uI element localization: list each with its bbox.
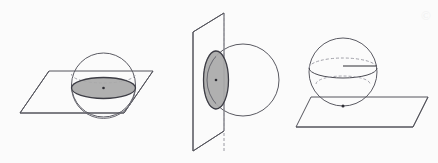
center-dot	[215, 79, 218, 82]
plane-left-edge	[20, 71, 49, 113]
lower-latitude-dashed-arc	[316, 76, 370, 84]
figure-2-sphere-cut-by-vertical-plane	[193, 13, 279, 151]
plane-parallelogram	[296, 97, 428, 127]
figure-1-sphere-cut-by-horizontal-plane	[20, 53, 153, 118]
figure-board: ©	[0, 0, 438, 163]
equator-front-arc	[309, 68, 377, 78]
center-dot	[102, 87, 105, 90]
geometry-illustration	[0, 0, 438, 163]
figure-3-sphere-tangent-to-plane	[296, 38, 428, 127]
tangent-point-dot	[342, 105, 345, 108]
plane-right-edge	[413, 97, 428, 127]
sphere-outline	[309, 38, 377, 106]
watermark: ©	[421, 8, 432, 24]
